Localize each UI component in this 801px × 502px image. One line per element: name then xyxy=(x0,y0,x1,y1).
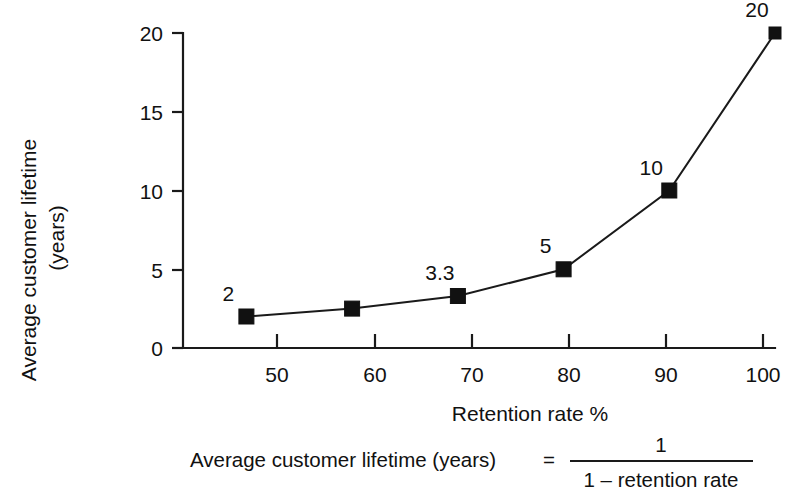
series-markers: 23.351020 xyxy=(223,0,781,324)
series-line xyxy=(246,33,775,317)
data-point-label: 2 xyxy=(223,282,235,305)
x-tick-label-60: 60 xyxy=(363,363,386,386)
y-tick-label-15: 15 xyxy=(140,101,163,124)
data-point-marker xyxy=(239,309,254,324)
y-tick-label-0: 0 xyxy=(151,337,163,360)
data-point-label: 10 xyxy=(640,156,663,179)
y-tick-label-10: 10 xyxy=(140,180,163,203)
data-point-marker xyxy=(345,301,360,316)
y-axis-title: Average customer lifetime (years) xyxy=(17,139,68,381)
chart-figure: Average customer lifetime (years) 20 15 … xyxy=(0,0,801,502)
x-tick-label-100: 100 xyxy=(745,363,780,386)
x-tick-label-50: 50 xyxy=(265,363,288,386)
data-point-label: 5 xyxy=(540,234,552,257)
y-axis-title-line2: (years) xyxy=(45,205,68,270)
formula-equals-sign: = xyxy=(543,448,555,471)
formula-left-side: Average customer lifetime (years) xyxy=(190,448,496,471)
data-point-label: 20 xyxy=(745,0,768,21)
x-tick-label-80: 80 xyxy=(557,363,580,386)
retention-lifetime-line-chart: Average customer lifetime (years) 20 15 … xyxy=(0,0,801,502)
axis-lines xyxy=(183,33,775,348)
x-axis-ticks xyxy=(277,334,763,348)
x-tick-label-90: 90 xyxy=(654,363,677,386)
formula-numerator: 1 xyxy=(655,433,666,456)
data-point-marker xyxy=(450,289,465,304)
y-axis-ticks xyxy=(172,33,183,348)
data-point-marker xyxy=(769,27,781,39)
data-point-marker xyxy=(556,262,571,277)
y-tick-label-20: 20 xyxy=(140,22,163,45)
formula-caption: Average customer lifetime (years) = 1 1 … xyxy=(190,433,753,491)
data-point-marker xyxy=(662,183,677,198)
data-point-label: 3.3 xyxy=(425,261,454,284)
y-axis-title-line1: Average customer lifetime xyxy=(17,139,40,381)
x-axis-title: Retention rate % xyxy=(452,402,608,425)
x-tick-label-70: 70 xyxy=(460,363,483,386)
formula-denominator: 1 – retention rate xyxy=(584,468,739,491)
y-tick-label-5: 5 xyxy=(151,259,163,282)
x-axis-tick-labels: 50 60 70 80 90 100 xyxy=(265,363,780,386)
y-axis-tick-labels: 20 15 10 5 0 xyxy=(140,22,163,360)
